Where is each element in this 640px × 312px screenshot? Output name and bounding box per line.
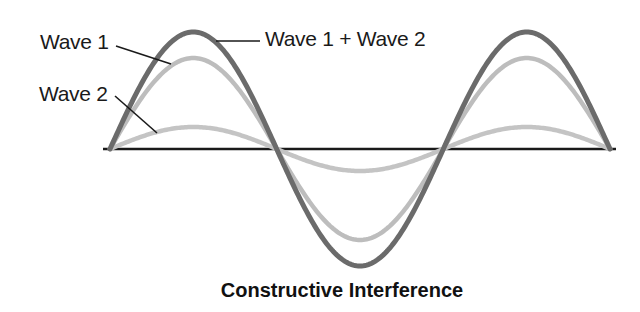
sum-label: Wave 1 + Wave 2 <box>265 27 425 51</box>
wave-2-label: Wave 2 <box>39 82 108 106</box>
wave-1-label: Wave 1 <box>40 30 109 54</box>
diagram-caption: Constructive Interference <box>0 279 640 302</box>
